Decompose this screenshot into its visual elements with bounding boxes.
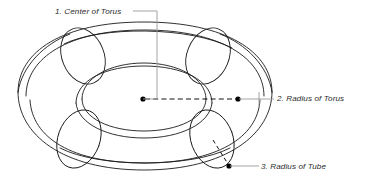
inner-hole-upper [82, 63, 206, 99]
leader-center-of-torus [133, 11, 157, 99]
sweep-upper-left [64, 31, 232, 48]
outer-band-lower [30, 100, 260, 163]
label-radius-of-tube: 3. Radius of Tube [261, 162, 326, 171]
label-radius-of-torus: 2. Radius of Torus [276, 94, 344, 103]
tube-cross-section-right-top [178, 21, 239, 91]
tube-cross-section-left-bottom [49, 104, 109, 175]
tube-cross-section-left-top [53, 21, 114, 91]
torus-figure-svg: Torus geometry annotated diagram [0, 0, 369, 193]
tube-cross-section-right-bottom [182, 104, 242, 175]
sweep-left-outer [18, 34, 70, 92]
label-center-of-torus: 1. Center of Torus [55, 7, 121, 16]
torus-diagram: Torus geometry annotated diagram [0, 0, 369, 193]
outer-silhouette-upper [18, 22, 272, 92]
tube-cross-sections [49, 21, 242, 174]
